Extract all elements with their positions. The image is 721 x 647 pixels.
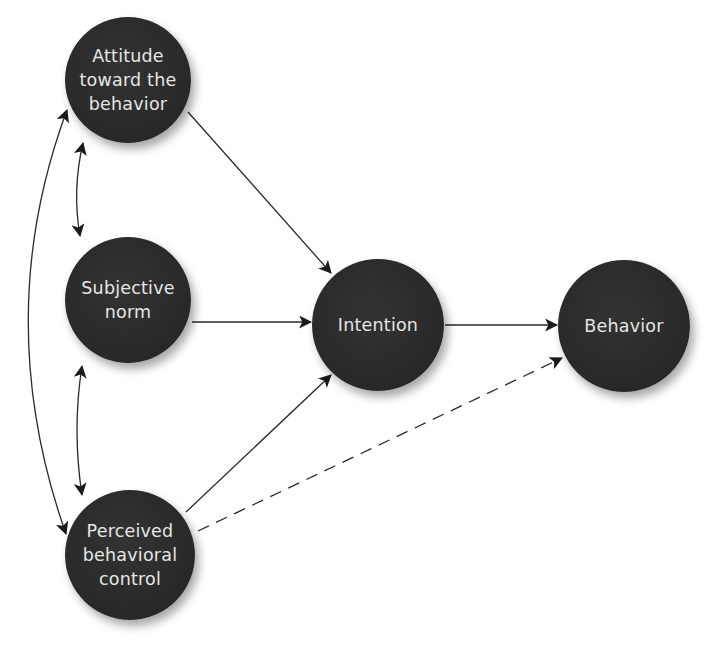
edge-subjective-norm-perceived-control-bidirectional: [77, 366, 82, 495]
edge-perceived-control-to-intention: [186, 375, 331, 512]
node-attitude-toward-behavior: Attitude toward the behavior: [65, 17, 191, 143]
node-subjective-norm: Subjective norm: [65, 237, 191, 363]
edge-attitude-subjective-norm-bidirectional: [77, 143, 83, 236]
node-label: Intention: [338, 313, 418, 337]
node-perceived-behavioral-control: Perceived behavioral control: [65, 490, 195, 620]
node-intention: Intention: [312, 259, 444, 391]
node-behavior: Behavior: [558, 260, 690, 392]
node-label: Perceived behavioral control: [83, 519, 177, 591]
theory-of-planned-behavior-diagram: Attitude toward the behavior Subjective …: [0, 0, 721, 647]
edge-attitude-perceived-control-bidirectional: [28, 110, 67, 534]
edge-attitude-to-intention: [188, 112, 331, 273]
node-label: Attitude toward the behavior: [80, 44, 177, 116]
node-label: Subjective norm: [81, 276, 174, 324]
node-label: Behavior: [584, 314, 663, 338]
